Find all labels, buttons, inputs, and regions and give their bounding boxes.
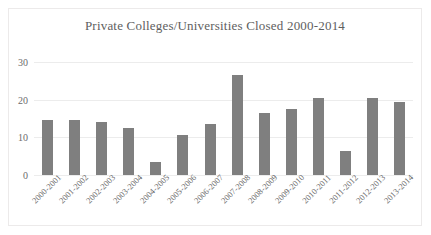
- chart-container: Private Colleges/Universities Closed 200…: [8, 8, 422, 226]
- bar[interactable]: [286, 109, 297, 175]
- bar-slot: 2010-2011: [305, 62, 332, 175]
- bar-slot: 2006-2007: [196, 62, 223, 175]
- bar-slot: 2005-2006: [169, 62, 196, 175]
- y-axis-tick-label: 10: [18, 132, 28, 143]
- bar-slot: 2003-2004: [115, 62, 142, 175]
- bar-slot: 2001-2002: [61, 62, 88, 175]
- bar-slot: 2011-2012: [332, 62, 359, 175]
- bar[interactable]: [150, 162, 161, 175]
- y-axis-tick-label: 30: [18, 57, 28, 68]
- bar-slot: 2002-2003: [88, 62, 115, 175]
- bar[interactable]: [205, 124, 216, 175]
- bar[interactable]: [313, 98, 324, 175]
- bar[interactable]: [96, 122, 107, 175]
- bar-slot: 2013-2014: [386, 62, 413, 175]
- bar[interactable]: [69, 120, 80, 175]
- y-axis-tick-label: 0: [23, 170, 28, 181]
- bar[interactable]: [232, 75, 243, 175]
- bar-series: 2000-20012001-20022002-20032003-20042004…: [34, 62, 413, 175]
- bar-slot: 2000-2001: [34, 62, 61, 175]
- x-axis-tick-label: 2012-2013: [354, 172, 387, 205]
- bar[interactable]: [340, 151, 351, 175]
- bar-slot: 2009-2010: [278, 62, 305, 175]
- x-axis-tick-label: 2009-2010: [273, 172, 306, 205]
- bar[interactable]: [367, 98, 378, 175]
- bar-slot: 2007-2008: [224, 62, 251, 175]
- x-axis-tick-label: 2013-2014: [381, 172, 414, 205]
- bar[interactable]: [259, 113, 270, 175]
- chart-title: Private Colleges/Universities Closed 200…: [9, 18, 421, 34]
- y-axis-tick-label: 20: [18, 94, 28, 105]
- bar-slot: 2012-2013: [359, 62, 386, 175]
- plot-area: 0102030 2000-20012001-20022002-20032003-…: [34, 62, 413, 175]
- bar[interactable]: [123, 128, 134, 175]
- x-axis-tick-label: 2000-2001: [29, 172, 62, 205]
- bar-slot: 2004-2005: [142, 62, 169, 175]
- bar-slot: 2008-2009: [251, 62, 278, 175]
- bar[interactable]: [42, 120, 53, 175]
- bar[interactable]: [394, 102, 405, 175]
- bar[interactable]: [177, 135, 188, 175]
